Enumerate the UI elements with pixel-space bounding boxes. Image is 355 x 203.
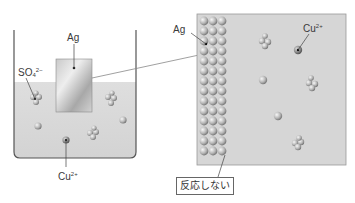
copper-ion-sphere bbox=[34, 122, 41, 129]
copper-ion-label: Cu2+ bbox=[58, 169, 78, 182]
no-reaction-label: 反応しない bbox=[176, 177, 234, 195]
sulfate-label-base: SO bbox=[18, 67, 32, 78]
magnified-copper-label: Cu2+ bbox=[303, 21, 323, 34]
ag-atom-label: Ag bbox=[173, 25, 185, 35]
ag-plate-label: Ag bbox=[67, 33, 79, 43]
magnify-connector bbox=[92, 55, 199, 78]
magnified-copper-charge: 2+ bbox=[316, 23, 323, 29]
sulfate-label-charge: 2− bbox=[36, 67, 43, 73]
magnified-copper-base: Cu bbox=[303, 23, 316, 34]
copper-label-base: Cu bbox=[58, 171, 71, 182]
copper-ion-sphere bbox=[119, 116, 126, 123]
sulfate-ion-label: SO42− bbox=[18, 65, 43, 80]
diagram-canvas: Ag SO42− Cu2+ Ag Cu2+ 反応しない bbox=[0, 0, 355, 203]
copper-pointer-dot bbox=[65, 139, 67, 141]
magnified-copper-ion bbox=[274, 112, 282, 120]
magnified-copper-ion bbox=[259, 76, 267, 84]
sulfate-pointer-dot bbox=[34, 98, 36, 100]
copper-label-charge: 2+ bbox=[71, 171, 78, 177]
